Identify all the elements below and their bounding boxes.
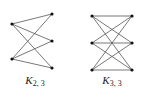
k33-label: K3, 3 [102,74,121,88]
vertex [90,14,93,17]
edge [12,14,52,24]
vertex [50,39,53,42]
vertex [10,22,13,25]
k23-graph [10,12,53,69]
vertex [130,41,133,44]
k23-label: K2, 3 [25,74,44,88]
vertex [10,57,13,60]
vertex [90,68,93,71]
edge [12,24,52,41]
vertex [130,68,133,71]
edge [12,41,52,59]
vertex [50,66,53,69]
k33-graph [90,14,133,71]
edge [12,59,52,68]
edge [12,24,52,68]
vertex [130,14,133,17]
vertex [50,12,53,15]
vertex [90,41,93,44]
edge [12,14,52,59]
